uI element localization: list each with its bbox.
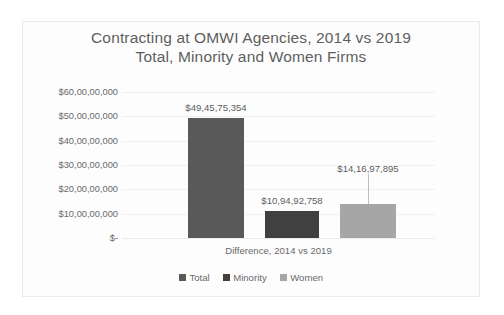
data-label-minority: $10,94,92,758 <box>252 195 332 206</box>
x-axis-title: Difference, 2014 vs 2019 <box>122 245 435 256</box>
legend-item-minority[interactable]: Minority <box>223 272 267 283</box>
gridline <box>122 238 435 239</box>
data-label-women: $14,16,97,895 <box>328 163 408 174</box>
y-axis-tick-label: $40,00,00,000 <box>26 136 118 146</box>
chart-legend: TotalMinorityWomen <box>22 272 480 283</box>
data-label-leader-line <box>368 174 369 204</box>
y-axis-tick-label: $10,00,00,000 <box>26 209 118 219</box>
y-axis-tick-label: $20,00,00,000 <box>26 184 118 194</box>
gridline <box>122 92 435 93</box>
gridline <box>122 116 435 117</box>
bar-total[interactable] <box>188 118 244 238</box>
legend-label: Minority <box>233 272 267 283</box>
y-axis-tick-label: $60,00,00,000 <box>26 87 118 97</box>
data-label-total: $49,45,75,354 <box>176 102 256 113</box>
bar-women[interactable] <box>340 204 396 238</box>
chart-title-line-1: Contracting at OMWI Agencies, 2014 vs 20… <box>91 29 411 46</box>
legend-label: Total <box>189 272 209 283</box>
chart-title-line-2: Total, Minority and Women Firms <box>22 47 480 66</box>
legend-swatch-icon <box>223 274 230 281</box>
gridline <box>122 141 435 142</box>
y-axis-tick-labels: $60,00,00,000$50,00,00,000$40,00,00,000$… <box>26 92 118 238</box>
legend-label: Women <box>290 272 323 283</box>
gridline <box>122 189 435 190</box>
bar-minority[interactable] <box>265 211 319 238</box>
y-axis-tick-label: $- <box>26 233 118 243</box>
y-axis-tick-label: $30,00,00,000 <box>26 160 118 170</box>
plot-area: $49,45,75,354$10,94,92,758$14,16,97,895 <box>122 92 435 238</box>
chart-title: Contracting at OMWI Agencies, 2014 vs 20… <box>22 28 480 66</box>
legend-item-total[interactable]: Total <box>179 272 210 283</box>
legend-swatch-icon <box>179 274 186 281</box>
legend-swatch-icon <box>280 274 287 281</box>
y-axis-tick-label: $50,00,00,000 <box>26 111 118 121</box>
legend-item-women[interactable]: Women <box>280 272 323 283</box>
